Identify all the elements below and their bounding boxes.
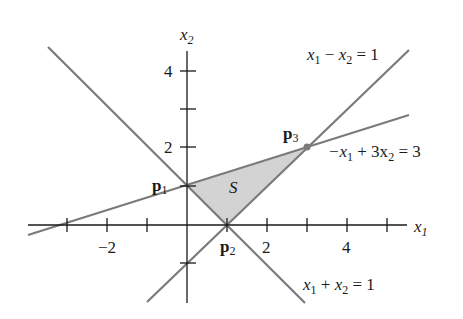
point-p2-label: p2 [220, 237, 235, 258]
x-axis-label: x1 [413, 217, 428, 239]
equation-neg-x1-plus-3x2: −x1 + 3x2 = 3 [328, 142, 421, 164]
feasible-region-diagram: x1 x2 −2 2 4 2 4 p1 p2 p3 S x1 − x2 = 1 … [0, 0, 463, 319]
x-tick-label: −2 [98, 238, 116, 257]
x-axis [28, 218, 407, 232]
point-p1-label: p1 [152, 176, 167, 197]
y-tick-label: 4 [164, 62, 173, 81]
region-s [187, 147, 307, 225]
y-tick-label: 2 [164, 138, 173, 157]
region-s-label: S [229, 178, 238, 197]
y-axis-label: x2 [179, 25, 194, 47]
x-tick-label: 2 [262, 238, 271, 257]
equation-x1-minus-x2: x1 − x2 = 1 [306, 45, 379, 67]
line-x1-minus-x2 [147, 50, 409, 302]
point-p3-dot [304, 144, 311, 151]
point-p3-label: p3 [283, 124, 298, 145]
x-tick-label: 4 [342, 238, 351, 257]
equation-x1-plus-x2: x1 + x2 = 1 [302, 275, 375, 297]
y-axis [180, 51, 196, 303]
